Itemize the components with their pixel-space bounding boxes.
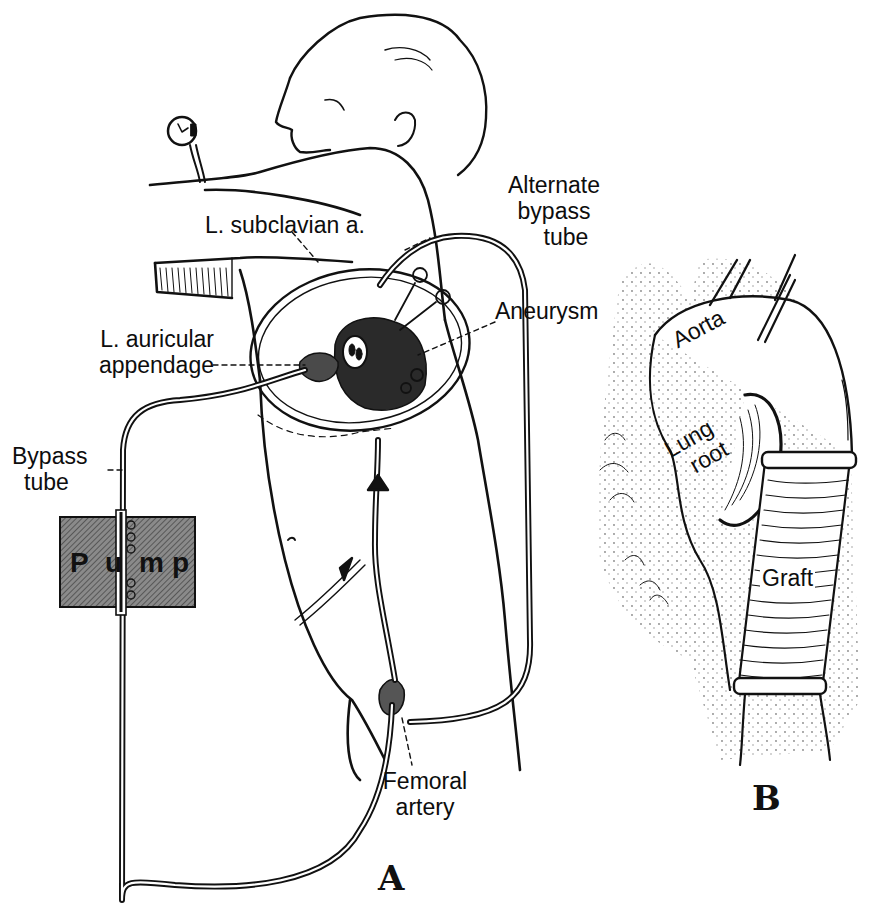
label-bypass-tube-line2: tube [12, 469, 87, 495]
label-bypass-tube: Bypass tube [12, 443, 87, 495]
label-alternate-bypass-tube-line2: bypass [484, 198, 624, 224]
aneurysm-mass [300, 318, 427, 410]
panel-b-drawing [598, 255, 860, 765]
bypass-tube [122, 370, 392, 900]
panel-label-a: A [378, 858, 404, 898]
label-alternate-bypass-tube-line3: tube [484, 224, 624, 250]
label-alternate-bypass-tube-line1: Alternate [484, 172, 624, 198]
label-alternate-bypass-tube: Alternate bypass tube [484, 172, 624, 250]
label-femoral-line1: Femoral [370, 768, 480, 794]
leader-lines [108, 232, 495, 765]
label-auricular-line2: appendage [62, 352, 214, 378]
label-bypass-tube-line1: Bypass [12, 443, 87, 469]
label-aneurysm: Aneurysm [495, 298, 599, 324]
internal-vessel [340, 440, 395, 680]
pump-letter-m: m [139, 547, 164, 579]
label-graft: Graft [760, 565, 815, 591]
pump-letter-p2: p [172, 547, 189, 579]
pump-letter-p: P [70, 547, 89, 579]
patient-head [276, 15, 486, 175]
patient-torso [150, 148, 520, 780]
label-femoral-artery: Femoral artery [370, 768, 480, 820]
label-auricular-line1: L. auricular [62, 326, 214, 352]
label-l-auricular-appendage: L. auricular appendage [62, 326, 214, 378]
label-l-subclavian-artery: L. subclavian a. [205, 212, 365, 238]
label-femoral-line2: artery [370, 794, 480, 820]
pressure-gauge-icon [168, 117, 205, 182]
panel-label-b: B [752, 778, 781, 818]
pump-letter-u: u [105, 547, 122, 579]
